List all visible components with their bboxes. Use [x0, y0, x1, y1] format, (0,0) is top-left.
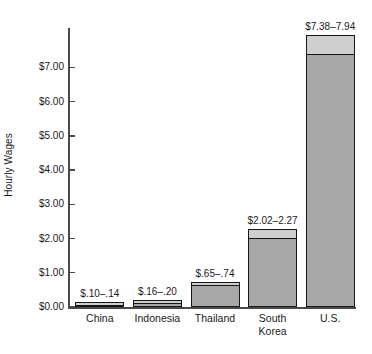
y-tick-label: $1.00: [39, 268, 64, 278]
y-tick-label: $2.00: [39, 234, 64, 244]
bar-value-label: $.16–.20: [115, 286, 200, 297]
bar-value-label: $7.38–7.94: [288, 21, 372, 32]
y-axis-tick-labels: $0.00$1.00$2.00$3.00$4.00$5.00$6.00$7.00: [10, 28, 64, 308]
category-label: U.S.: [292, 312, 369, 325]
y-tick-mark: [69, 306, 75, 307]
bar-value-label: $.65–.74: [173, 268, 258, 279]
y-tick-label: $4.00: [39, 165, 64, 175]
plot-area: $0.00$1.00$2.00$3.00$4.00$5.00$6.00$7.00…: [68, 28, 356, 309]
y-tick-mark: [69, 238, 75, 239]
bar-range-cap: [249, 230, 296, 239]
chart-figure: Hourly Wages $0.00$1.00$2.00$3.00$4.00$5…: [0, 0, 372, 354]
bar-range-cap: [76, 303, 123, 306]
bar: [75, 302, 124, 307]
x-axis-line: [68, 307, 356, 309]
y-tick-mark: [69, 204, 75, 205]
y-tick-label: $5.00: [39, 131, 64, 141]
bar-range-cap: [307, 36, 354, 55]
y-tick-label: $3.00: [39, 199, 64, 209]
bar-value-label: $2.02–2.27: [230, 215, 315, 226]
bar: [306, 35, 355, 307]
y-tick-label: $6.00: [39, 97, 64, 107]
y-tick-mark: [69, 272, 75, 273]
y-tick-mark: [69, 135, 75, 136]
y-tick-label: $7.00: [39, 62, 64, 72]
y-axis-line: [68, 28, 70, 308]
bar: [133, 300, 182, 307]
y-tick-mark: [69, 169, 75, 170]
y-tick-mark: [69, 101, 75, 102]
y-tick-mark: [69, 67, 75, 68]
y-tick-label: $0.00: [39, 302, 64, 312]
bar-range-cap: [134, 301, 181, 304]
